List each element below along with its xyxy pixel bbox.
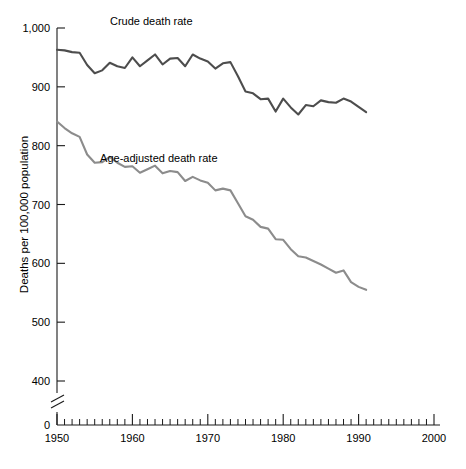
series-label-age-adjusted-death-rate: Age-adjusted death rate <box>100 152 217 164</box>
y-axis-title: Deaths per 100,000 population <box>18 136 30 293</box>
x-tick-label: 1980 <box>271 432 295 444</box>
y-tick-label: 400 <box>32 375 50 387</box>
y-tick-label: 800 <box>32 140 50 152</box>
x-tick-label: 1970 <box>196 432 220 444</box>
x-tick-label: 1990 <box>346 432 370 444</box>
x-tick-label: 1960 <box>120 432 144 444</box>
x-tick-label: 2000 <box>422 432 446 444</box>
series-line-age-adjusted-death-rate <box>57 122 366 290</box>
y-tick-label: 700 <box>32 199 50 211</box>
series-line-crude-death-rate <box>57 50 366 115</box>
y-tick-label: 600 <box>32 257 50 269</box>
x-tick-label: 1950 <box>45 432 69 444</box>
line-chart: 4005006007008009001,00001950196019701980… <box>0 0 466 469</box>
chart-container: 4005006007008009001,00001950196019701980… <box>0 0 466 469</box>
series-label-crude-death-rate: Crude death rate <box>110 15 193 27</box>
y-tick-label: 900 <box>32 81 50 93</box>
y-tick-label: 500 <box>32 316 50 328</box>
y-zero-label: 0 <box>44 419 50 431</box>
y-tick-label: 1,000 <box>22 22 50 34</box>
axis-break-mark <box>51 401 64 408</box>
axis-break-mark <box>51 395 64 402</box>
